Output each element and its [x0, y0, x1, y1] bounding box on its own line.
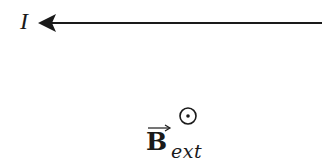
field-out-of-page-icon: [178, 106, 198, 126]
field-label: B ext: [146, 124, 216, 164]
field-subscript: ext: [171, 140, 202, 162]
current-arrow-icon: [0, 0, 329, 50]
field-letter: B: [146, 128, 167, 156]
